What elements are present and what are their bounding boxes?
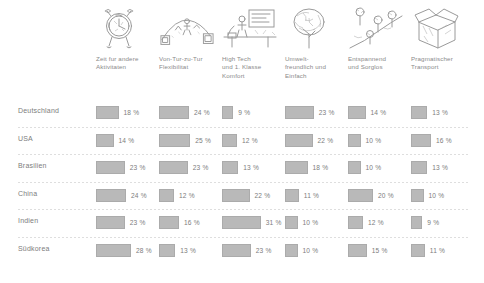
value-label: 24 % xyxy=(194,109,210,116)
value-label: 18 % xyxy=(124,109,140,116)
value-label: 14 % xyxy=(371,109,387,116)
bar xyxy=(96,244,131,257)
cell-china-3: 11 % xyxy=(285,188,319,203)
header-line-3: Einfach xyxy=(285,72,341,80)
data-table: Deutschland 18 % 24 % 9 % 23 % 14 % 13 %… xyxy=(0,100,484,265)
header-line-2: Aktivitaten xyxy=(96,63,152,71)
header-line-1: Umwelt- xyxy=(285,55,341,63)
header-line-1: Pragmatischer xyxy=(411,55,467,63)
cell-brasilien-3: 18 % xyxy=(285,160,328,175)
cell-brasilien-0: 23 % xyxy=(96,160,146,175)
bar xyxy=(285,244,298,257)
column-header-zeit-fur-andere-aktivitaten: Zeit fur andere Aktivitaten xyxy=(96,6,156,72)
column-header-entspannend-und-sorglos: Entspannend und Sorglos xyxy=(348,6,408,72)
cell-usa-2: 12 % xyxy=(222,133,258,148)
value-label: 31 % xyxy=(266,219,282,226)
column-header-row: Zeit fur andere Aktivitaten xyxy=(0,0,484,100)
tree-icon xyxy=(285,6,341,50)
bar xyxy=(96,134,114,147)
value-label: 18 % xyxy=(313,164,329,171)
value-label: 14 % xyxy=(119,137,135,144)
value-label: 23 % xyxy=(256,247,272,254)
cell-indien-1: 16 % xyxy=(159,215,200,230)
bar xyxy=(411,161,427,174)
cell-deutschland-5: 13 % xyxy=(411,105,448,120)
bar xyxy=(285,106,314,119)
table-row: Südkorea 28 % 13 % 23 % 10 % 15 % 11 % xyxy=(0,238,484,266)
bar xyxy=(348,216,363,229)
value-label: 13 % xyxy=(432,164,448,171)
value-label: 10 % xyxy=(303,219,319,226)
row-label-china: China xyxy=(18,190,37,197)
value-label: 22 % xyxy=(318,137,334,144)
cell-deutschland-0: 18 % xyxy=(96,105,139,120)
value-label: 16 % xyxy=(184,219,200,226)
bar xyxy=(222,106,233,119)
value-label: 23 % xyxy=(130,164,146,171)
cell-china-2: 22 % xyxy=(222,188,270,203)
value-label: 11 % xyxy=(430,247,445,254)
value-label: 25 % xyxy=(195,137,211,144)
value-label: 23 % xyxy=(130,219,146,226)
bar xyxy=(348,106,366,119)
column-header-high-tech-und-1-klasse-komfort: High Tech und 1. Klasse Komfort xyxy=(222,6,282,80)
bar xyxy=(285,134,313,147)
table-row: Brasilien 23 % 23 % 13 % 18 % 10 % 13 % xyxy=(0,155,484,183)
bar xyxy=(96,189,126,202)
cell-usa-3: 22 % xyxy=(285,133,333,148)
value-label: 15 % xyxy=(372,247,388,254)
value-label: 12 % xyxy=(179,192,195,199)
value-label: 13 % xyxy=(180,247,196,254)
value-label: 12 % xyxy=(242,137,258,144)
bar xyxy=(411,216,422,229)
column-header-label: Entspannend und Sorglos xyxy=(348,55,404,72)
column-header-label: Pragmatischer Transport xyxy=(411,55,467,72)
cell-china-5: 10 % xyxy=(411,188,444,203)
column-header-pragmatischer-transport: Pragmatischer Transport xyxy=(411,6,471,72)
cardboard-box-icon xyxy=(411,6,467,50)
cell-china-4: 20 % xyxy=(348,188,394,203)
cell-brasilien-1: 23 % xyxy=(159,160,209,175)
bar xyxy=(159,244,175,257)
column-header-von-tur-zu-tur-flexibilitat: Von-Tur-zu-Tur Flexibilitat xyxy=(159,6,219,72)
header-line-1: High Tech xyxy=(222,55,278,63)
cell-indien-2: 31 % xyxy=(222,215,282,230)
cell-china-1: 12 % xyxy=(159,188,195,203)
row-label-indien: Indien xyxy=(18,217,38,224)
cell-indien-0: 23 % xyxy=(96,215,146,230)
row-label-sudkorea: Südkorea xyxy=(18,245,50,252)
table-row: USA 14 % 25 % 12 % 22 % 10 % 16 % xyxy=(0,128,484,156)
table-row: Deutschland 18 % 24 % 9 % 23 % 14 % 13 % xyxy=(0,100,484,128)
cell-deutschland-1: 24 % xyxy=(159,105,210,120)
cell-sudkorea-4: 15 % xyxy=(348,243,388,258)
bar xyxy=(159,106,189,119)
header-line-2: Flexibilitat xyxy=(159,63,215,71)
value-label: 9 % xyxy=(427,219,439,226)
bar xyxy=(285,189,299,202)
bar xyxy=(159,216,179,229)
value-label: 10 % xyxy=(303,247,319,254)
high-tech-desk-icon xyxy=(222,6,278,50)
column-header-label: Zeit fur andere Aktivitaten xyxy=(96,55,152,72)
cell-sudkorea-3: 10 % xyxy=(285,243,318,258)
door-to-door-icon xyxy=(159,6,215,50)
value-label: 11 % xyxy=(304,192,319,199)
value-label: 12 % xyxy=(368,219,384,226)
cell-usa-1: 25 % xyxy=(159,133,211,148)
table-row: Indien 23 % 16 % 31 % 10 % 12 % 9 % xyxy=(0,210,484,238)
column-header-label: High Tech und 1. Klasse Komfort xyxy=(222,55,278,80)
column-header-label: Von-Tur-zu-Tur Flexibilitat xyxy=(159,55,215,72)
cell-usa-5: 16 % xyxy=(411,133,452,148)
value-label: 28 % xyxy=(136,247,152,254)
table-row: China 24 % 12 % 22 % 11 % 20 % 10 % xyxy=(0,183,484,211)
bar xyxy=(222,134,237,147)
bar xyxy=(222,244,251,257)
cell-usa-4: 10 % xyxy=(348,133,381,148)
cell-usa-0: 14 % xyxy=(96,133,134,148)
cell-sudkorea-0: 28 % xyxy=(96,243,152,258)
header-line-1: Entspannend xyxy=(348,55,404,63)
infographic-root: Zeit fur andere Aktivitaten xyxy=(0,0,484,283)
value-label: 10 % xyxy=(366,164,382,171)
bar xyxy=(285,161,308,174)
cell-brasilien-2: 13 % xyxy=(222,160,259,175)
